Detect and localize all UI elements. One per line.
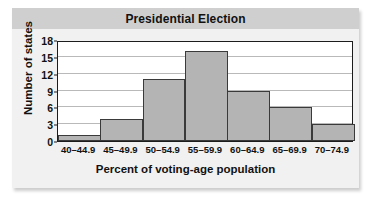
y-tick-mark [54,41,57,42]
y-tick-label: 18 [41,35,53,47]
chart-title-band: Presidential Election [12,8,359,29]
figure-root: Presidential Election Number of states 0… [0,0,371,203]
x-tick-label: 45–49.9 [99,144,141,155]
bar [143,79,186,141]
y-tick-mark [54,57,57,58]
bar [58,135,101,141]
y-axis-label: Number of states [22,14,34,122]
bar [100,119,143,141]
x-tick-label: 50–54.9 [142,144,184,155]
y-tick-label: 3 [47,119,53,131]
y-tick-label: 6 [47,102,53,114]
bar-series [58,42,352,141]
x-axis-ticks: 40–44.945–49.950–54.955–59.960–64.965–69… [57,144,353,160]
y-tick-label: 15 [41,52,53,64]
x-tick-label: 65–69.9 [268,144,310,155]
chart-card: Presidential Election Number of states 0… [12,8,359,188]
y-tick-label: 12 [41,69,53,81]
bar [312,124,355,141]
y-tick-mark [54,91,57,92]
y-tick-mark [54,74,57,75]
x-tick-label: 55–59.9 [184,144,226,155]
y-tick-mark [54,125,57,126]
x-tick-label: 40–44.9 [57,144,99,155]
chart-title: Presidential Election [125,12,245,26]
y-tick-mark [54,142,57,143]
bar [185,51,228,141]
bar [227,91,270,142]
x-tick-label: 70–74.9 [311,144,353,155]
y-tick-label: 0 [47,136,53,148]
y-tick-label: 9 [47,86,53,98]
plot-area [57,41,353,142]
bar [269,107,312,141]
y-tick-mark [54,108,57,109]
x-tick-label: 60–64.9 [226,144,268,155]
x-axis-label: Percent of voting-age population [12,163,359,175]
